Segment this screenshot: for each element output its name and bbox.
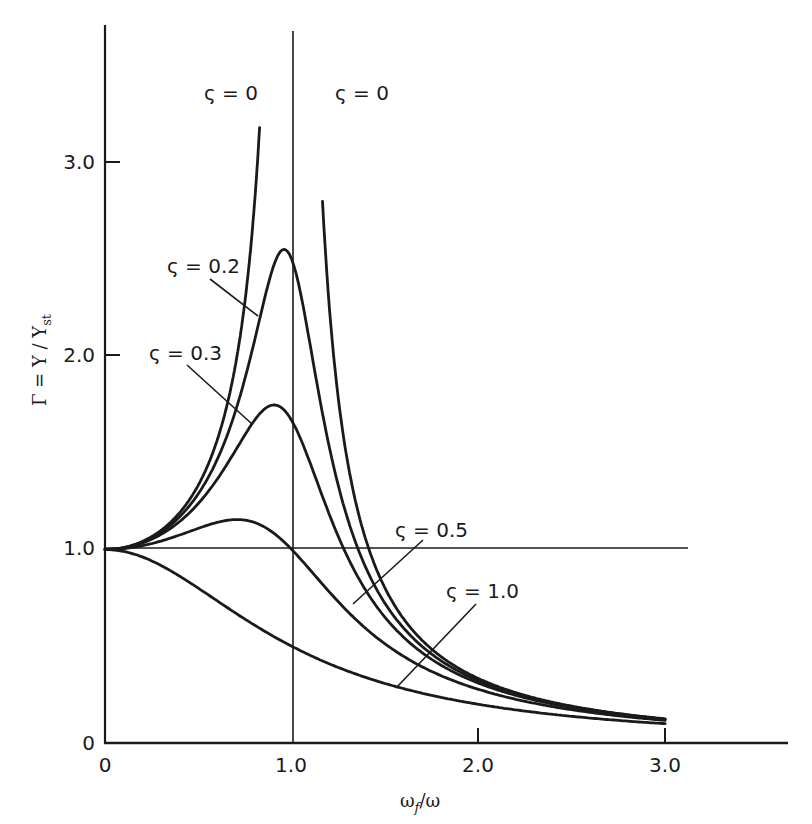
- chart-figure: 3.0 2.0 1.0 0 0 1.0 2.0 3.0 ωf/ω Γ = Y /…: [0, 0, 812, 824]
- y-tick-label-0: 0: [82, 731, 95, 755]
- label-zeta10: ς = 1.0: [446, 579, 519, 603]
- x-tick-label-3: 3.0: [649, 753, 681, 777]
- tick-labels: 3.0 2.0 1.0 0 0 1.0 2.0 3.0: [63, 150, 681, 777]
- label-zeta0-left: ς = 0: [204, 81, 258, 105]
- label-zeta03: ς = 0.3: [149, 341, 222, 365]
- x-axis-title: ωf/ω: [400, 790, 440, 815]
- plot-canvas: 3.0 2.0 1.0 0 0 1.0 2.0 3.0 ωf/ω Γ = Y /…: [0, 0, 812, 824]
- x-tick-label-0: 0: [99, 753, 112, 777]
- label-zeta02: ς = 0.2: [167, 254, 240, 278]
- curve-zeta-02-2: [105, 249, 665, 719]
- x-tick-label-2: 2.0: [462, 753, 494, 777]
- y-tick-label-3: 3.0: [63, 150, 95, 174]
- label-zeta05: ς = 0.5: [395, 518, 468, 542]
- leader-zeta02: [210, 279, 258, 316]
- curve-zeta-05-4: [105, 520, 665, 721]
- curve-zeta-0-0: [105, 128, 260, 550]
- leader-zeta03: [187, 365, 252, 424]
- y-tick-label-2: 2.0: [63, 343, 95, 367]
- label-zeta0-right: ς = 0: [335, 81, 389, 105]
- x-tick-label-1: 1.0: [275, 753, 307, 777]
- curves: [105, 128, 665, 724]
- curve-zeta-03-3: [105, 405, 665, 719]
- curve-zeta-0-1: [323, 201, 666, 719]
- y-axis-title: Γ = Y / Yst: [29, 313, 54, 406]
- y-tick-label-1: 1.0: [63, 536, 95, 560]
